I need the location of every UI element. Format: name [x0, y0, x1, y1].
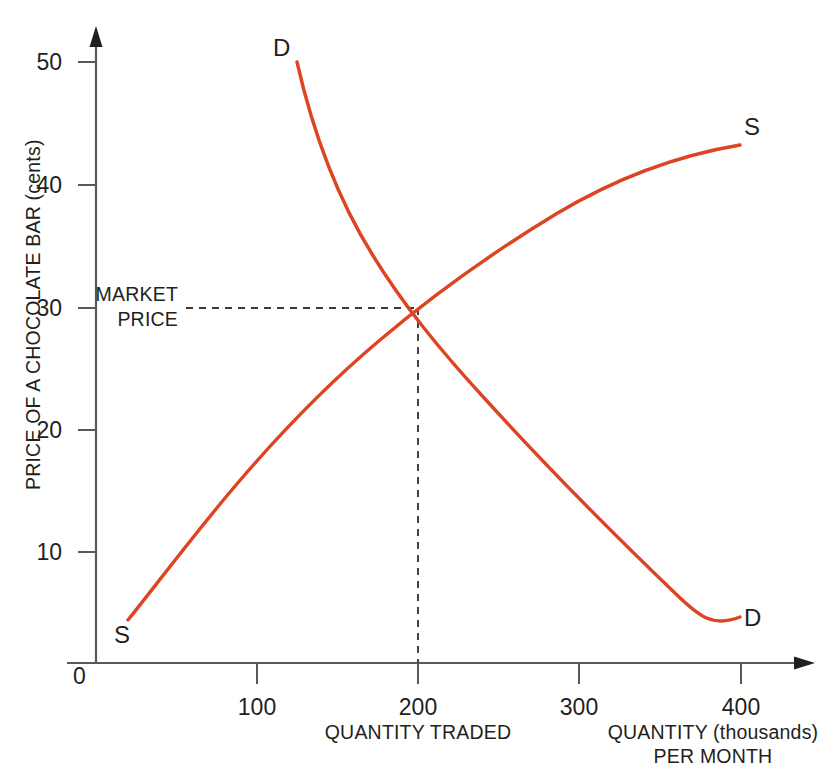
- x-tick-label-200: 200: [378, 694, 458, 721]
- demand-curve-label-top: D: [273, 34, 290, 62]
- y-tick-label-50: 50: [24, 49, 62, 76]
- demand-curve-label-bottom: D: [744, 604, 761, 632]
- quantity-traded-label: QUANTITY TRADED: [298, 721, 538, 744]
- supply-demand-plot: [0, 0, 836, 771]
- market-price-label-line1: MARKET: [50, 283, 178, 306]
- supply-curve: [128, 145, 740, 620]
- x-tick-label-400: 400: [701, 694, 781, 721]
- supply-curve-label-top: S: [744, 113, 760, 141]
- y-tick-label-10: 10: [24, 539, 62, 566]
- demand-curve: [297, 62, 740, 621]
- x-axis-title-line1: QUANTITY (thousands): [590, 721, 836, 744]
- supply-curve-label-bottom: S: [114, 621, 130, 649]
- x-tick-label-100: 100: [217, 694, 297, 721]
- x-tick-label-300: 300: [539, 694, 619, 721]
- x-axis-title-line2: PER MONTH: [590, 745, 836, 768]
- page-top-crop-artifact: [0, 0, 836, 6]
- market-price-label-line2: PRICE: [50, 308, 178, 331]
- origin-label: 0: [73, 663, 86, 690]
- y-axis-title: PRICE OF A CHOCOLATE BAR (cents): [22, 139, 45, 490]
- y-axis-arrowhead: [90, 26, 103, 47]
- x-axis-arrowhead: [794, 657, 815, 670]
- chart-figure: 50 40 30 20 10 0 100 200 300 400 PRICE O…: [0, 0, 836, 771]
